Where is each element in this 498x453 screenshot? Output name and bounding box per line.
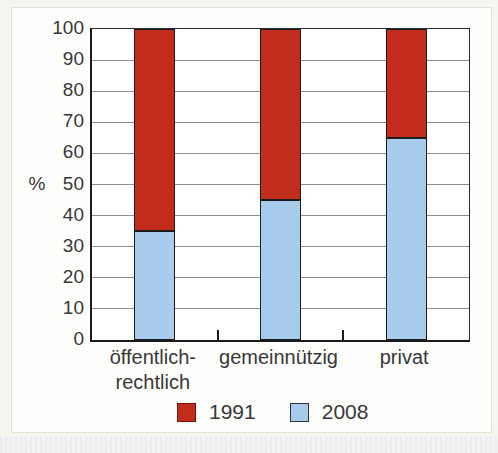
bar-segment-privat-1991 [386,29,427,138]
bar-segment-privat-2008 [386,138,427,340]
x-axis-separator-tick [342,330,344,340]
scan-texture-band [0,437,498,453]
y-tick-label-10: 10 [38,296,84,320]
legend-label-1991: 1991 [209,400,256,424]
bar-segment-öffentlich-rechtlich-2008 [134,231,175,340]
y-tick-label-20: 20 [38,265,84,289]
legend-label-2008: 2008 [322,400,369,424]
bar-segment-gemeinnützig-2008 [260,200,301,340]
y-tick-label-70: 70 [38,109,84,133]
bar-segment-gemeinnützig-1991 [260,29,301,200]
plot-area [90,28,470,342]
category-label-privat: privat [324,345,484,370]
y-tick-label-60: 60 [38,140,84,164]
y-tick-label-90: 90 [38,47,84,71]
bar-segment-öffentlich-rechtlich-1991 [134,29,175,231]
y-tick-label-40: 40 [38,203,84,227]
y-tick-label-50: 50 [38,172,84,196]
y-tick-label-30: 30 [38,234,84,258]
scanned-figure-page: % 0102030405060708090100 öffentlich-rech… [0,0,498,453]
legend-swatch-1991 [177,403,196,422]
stacked-bar-chart: % 0102030405060708090100 öffentlich-rech… [0,0,498,453]
y-tick-label-80: 80 [38,78,84,102]
legend-swatch-2008 [290,403,309,422]
y-tick-label-100: 100 [38,16,84,40]
legend-item-2008: 2008 [290,400,369,424]
legend-item-1991: 1991 [177,400,256,424]
chart-legend: 19912008 [177,400,368,424]
x-axis-separator-tick [217,330,219,340]
